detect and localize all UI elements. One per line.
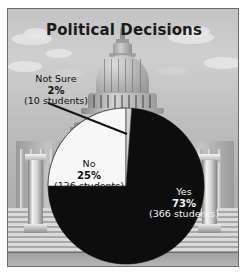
label-no: No 25% (126 students) — [46, 159, 132, 191]
label-no-count: (126 students) — [46, 181, 132, 192]
label-no-name: No — [46, 159, 132, 170]
label-yes-name: Yes — [138, 187, 230, 198]
label-yes: Yes 73% (366 students) — [138, 187, 230, 219]
pie-chart — [8, 9, 239, 267]
label-not-sure-count: (10 students) — [13, 96, 99, 107]
pie-chart-svg — [8, 9, 239, 267]
chart-image: Political Decisions Not Sure 2% (10 stud… — [0, 0, 246, 275]
label-not-sure: Not Sure 2% (10 students) — [13, 74, 99, 106]
image-frame: Political Decisions Not Sure 2% (10 stud… — [7, 8, 239, 267]
label-not-sure-name: Not Sure — [13, 74, 99, 85]
label-yes-count: (366 students) — [138, 209, 230, 220]
